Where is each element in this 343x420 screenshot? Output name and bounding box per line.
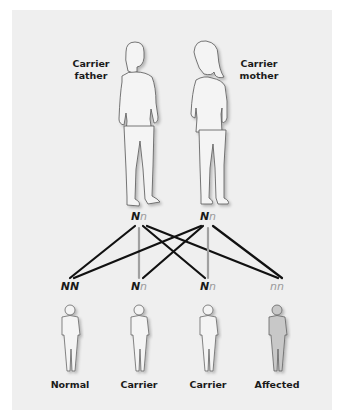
inheritance-diagram (0, 0, 343, 420)
allele: N (131, 280, 140, 293)
child-figure-icon (131, 305, 149, 371)
offspring-genotype-4: nn (257, 281, 297, 293)
allele: n (270, 280, 277, 293)
allele: N (70, 280, 79, 293)
allele: n (209, 280, 216, 293)
offspring-label-carrier: Carrier (178, 379, 238, 391)
allele: N (61, 280, 70, 293)
inheritance-lines (70, 226, 282, 278)
offspring-genotype-3: Nn (188, 281, 228, 293)
mother-dominant-allele: N (200, 210, 209, 223)
father-genotype: Nn (119, 211, 159, 223)
offspring-genotype-2: Nn (119, 281, 159, 293)
father-label-line1: Carrier (66, 58, 116, 70)
allele: n (140, 280, 147, 293)
offspring-label-affected: Affected (247, 379, 307, 391)
father-label: Carrier father (66, 58, 116, 82)
father-recessive-allele: n (140, 210, 147, 223)
father-label-line2: father (66, 70, 116, 82)
mother-recessive-allele: n (209, 210, 216, 223)
mother-genotype: Nn (188, 211, 228, 223)
allele: n (277, 280, 284, 293)
mother-figure-icon (191, 41, 229, 204)
mother-label-line2: mother (234, 70, 284, 82)
offspring-genotype-1: NN (50, 281, 90, 293)
offspring-label-normal: Normal (40, 379, 100, 391)
mother-label: Carrier mother (234, 58, 284, 82)
offspring-label-carrier: Carrier (109, 379, 169, 391)
child-figure-icon (62, 305, 80, 371)
affected-child-figure-icon (269, 305, 287, 371)
mother-label-line1: Carrier (234, 58, 284, 70)
father-figure-icon (119, 42, 160, 206)
allele: N (200, 280, 209, 293)
child-figure-icon (200, 305, 218, 371)
father-dominant-allele: N (131, 210, 140, 223)
